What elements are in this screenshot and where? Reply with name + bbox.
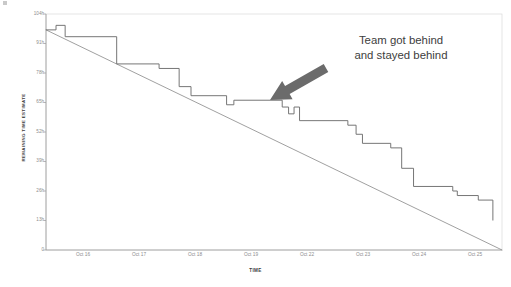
annotation-line-1: Team got behind (318, 33, 484, 48)
x-axis-title: TIME (0, 268, 511, 273)
x-tick-label: Oct 17 (116, 253, 162, 258)
burndown-chart: 104h 91h 78h 65h 52h 39h 26h 13h 0 Oct 1… (0, 0, 511, 287)
x-tick-label: Oct 18 (172, 253, 218, 258)
annotation-line-2: and stayed behind (318, 48, 484, 63)
x-tick-label: Oct 24 (396, 253, 442, 258)
x-tick-label: Oct 25 (452, 253, 498, 258)
x-tick-label: Oct 19 (228, 253, 274, 258)
annotation-callout: Team got behind and stayed behind (318, 33, 484, 63)
x-tick-label: Oct 16 (60, 253, 106, 258)
x-tick-label: Oct 22 (284, 253, 330, 258)
x-tick-label: Oct 23 (340, 253, 386, 258)
y-axis-title: REMAINING TIME ESTIMATE (21, 58, 26, 198)
